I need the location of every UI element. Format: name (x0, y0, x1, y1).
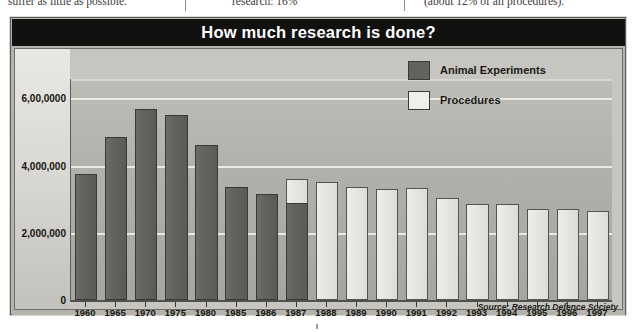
bar-animal-experiments-1985 (225, 187, 247, 300)
column-divider-2 (404, 0, 405, 11)
bar-procedures-1996 (557, 209, 579, 300)
bar-animal-experiments-1987 (286, 203, 308, 300)
x-tick-label-1965: 1965 (105, 307, 126, 318)
x-tick-label-1991: 1991 (406, 307, 427, 318)
x-tick-label-1960: 1960 (74, 307, 95, 318)
bar-procedures-1997 (587, 211, 609, 300)
article-text-column-1: suffer as little as possible. (8, 0, 127, 7)
x-tick-label-1988: 1988 (315, 307, 336, 318)
bar-animal-experiments-1960 (75, 174, 97, 300)
bar-animal-experiments-1986 (256, 194, 278, 300)
bar-procedures-1988 (316, 182, 338, 300)
y-axis-gutter (15, 49, 70, 309)
x-tick-label-1989: 1989 (345, 307, 366, 318)
x-tick-label-1980: 1980 (195, 307, 216, 318)
column-divider-1 (185, 0, 186, 11)
article-text-column-2: research: 16% (232, 0, 297, 7)
x-tick-label-1975: 1975 (165, 307, 186, 318)
chart-title-band: How much research is done? (12, 19, 625, 46)
bar-animal-experiments-1975 (165, 115, 187, 300)
page-top-text-strip: suffer as little as possible. research: … (0, 0, 636, 12)
bar-procedures-1989 (346, 187, 368, 300)
x-tick-label-1986: 1986 (255, 307, 276, 318)
bar-procedures-1992 (436, 198, 458, 300)
chart-body: 02,000,0004,000,0006,00,0000 19601965197… (12, 46, 625, 315)
page-artifact (316, 324, 318, 329)
x-tick-label-1992: 1992 (436, 307, 457, 318)
chart-title: How much research is done? (12, 19, 625, 46)
legend-label-animal-experiments: Animal Experiments (440, 60, 546, 81)
bar-animal-experiments-1965 (105, 137, 127, 300)
bar-animal-experiments-1970 (135, 109, 157, 300)
y-tick-label-2000000: 2,000,000 (12, 227, 69, 238)
x-tick-label-1990: 1990 (376, 307, 397, 318)
bar-procedures-1993 (466, 204, 488, 300)
x-tick-label-1970: 1970 (135, 307, 156, 318)
bar-procedures-1990 (376, 189, 398, 300)
chart-legend: Animal Experiments Procedures (408, 60, 588, 122)
legend-swatch-animal-experiments (408, 61, 430, 80)
legend-swatch-procedures (408, 91, 430, 110)
chart-source-note: Source: Research Defence Society (478, 302, 618, 312)
y-tick-label-0: 0 (12, 295, 69, 306)
article-text-column-3: (about 12% of all procedures). (424, 0, 564, 7)
x-tick-label-1987: 1987 (285, 307, 306, 318)
chart-figure: How much research is done? 02,000,0004,0… (10, 17, 626, 315)
bar-procedures-1991 (406, 188, 428, 300)
bar-procedures-1994 (496, 204, 518, 300)
x-tick-label-1985: 1985 (225, 307, 246, 318)
y-tick-label-6000000: 6,00,0000 (12, 93, 69, 104)
y-tick-label-4000000: 4,000,000 (12, 160, 69, 171)
legend-label-procedures: Procedures (440, 90, 501, 111)
bar-animal-experiments-1980 (195, 145, 217, 300)
bar-procedures-1995 (527, 209, 549, 300)
